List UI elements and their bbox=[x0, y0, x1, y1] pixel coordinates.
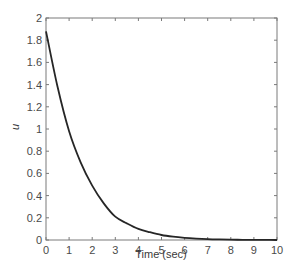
y-tick-label: 1.6 bbox=[27, 56, 42, 68]
x-tick-label: 2 bbox=[89, 244, 95, 256]
x-tick-label: 7 bbox=[205, 244, 211, 256]
x-axis-label: Time (sec) bbox=[135, 248, 187, 260]
y-tick-label: 0.6 bbox=[27, 167, 42, 179]
line-chart: 012345678910 00.20.40.60.811.21.41.61.82… bbox=[0, 0, 293, 274]
y-tick-label: 1.2 bbox=[27, 101, 42, 113]
y-tick-label: 1 bbox=[36, 123, 42, 135]
y-tick-label: 0 bbox=[36, 234, 42, 246]
y-tick-label: 0.8 bbox=[27, 145, 42, 157]
x-tick-label: 3 bbox=[112, 244, 118, 256]
y-tick-label: 2 bbox=[36, 12, 42, 24]
x-tick-label: 10 bbox=[271, 244, 283, 256]
y-tick-label: 0.2 bbox=[27, 212, 42, 224]
plot-frame bbox=[46, 18, 277, 240]
y-tick-label: 0.4 bbox=[27, 190, 42, 202]
x-tick-label: 1 bbox=[66, 244, 72, 256]
y-axis-label: u bbox=[9, 124, 21, 130]
x-tick-label: 8 bbox=[228, 244, 234, 256]
x-tick-label: 0 bbox=[43, 244, 49, 256]
x-tick-label: 9 bbox=[251, 244, 257, 256]
y-tick-label: 1.8 bbox=[27, 34, 42, 46]
y-tick-label: 1.4 bbox=[27, 79, 42, 91]
y-tick-labels: 00.20.40.60.811.21.41.61.82 bbox=[27, 12, 42, 246]
